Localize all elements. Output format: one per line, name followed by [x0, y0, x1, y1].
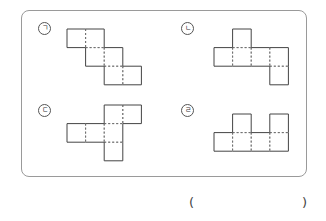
cube-net-a	[67, 29, 141, 85]
answer-open-paren: (	[189, 195, 194, 210]
cube-net-d	[214, 114, 288, 151]
answer-close-paren: )	[302, 195, 307, 210]
cube-net-b	[214, 29, 288, 85]
cube-net-c	[67, 105, 141, 161]
answer-blank[interactable]	[198, 195, 298, 211]
cube-nets	[0, 0, 326, 221]
